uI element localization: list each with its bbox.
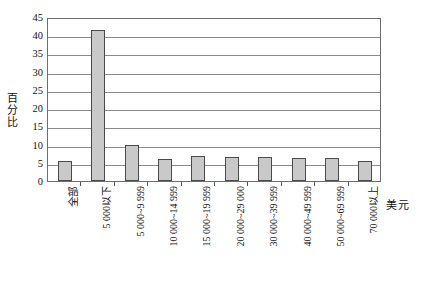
x-axis-category-label: 50 000~69 999 (335, 186, 346, 246)
bar (358, 161, 372, 181)
bar (258, 157, 272, 181)
bar (91, 30, 105, 181)
y-axis-tick-label: 25 (33, 86, 44, 96)
x-axis-category-label: 40 000~49 999 (302, 186, 313, 246)
x-axis-category-label: 全部 (68, 186, 79, 207)
x-axis-category-label: 10 000~14 999 (168, 186, 179, 246)
bar (292, 158, 306, 181)
y-axis-tick-label: 0 (38, 177, 43, 187)
x-axis-category-label: 15 000~19 999 (201, 186, 212, 246)
bar (158, 159, 172, 181)
x-axis-category-label: 5 000~9 999 (135, 186, 146, 236)
bar-series (48, 19, 380, 181)
y-axis-tick-label: 20 (33, 104, 44, 114)
y-axis-tick-label: 15 (33, 122, 44, 132)
plot-area (47, 18, 381, 182)
x-axis-category-labels: 全部5 000以下5 000~9 99910 000~14 99915 000~… (47, 186, 381, 282)
x-axis-category-label: 20 000~29 000 (235, 186, 246, 246)
x-axis-category-label: 70 000以上 (368, 186, 379, 234)
x-axis-category-label: 30 000~39 999 (268, 186, 279, 246)
y-axis-tick-labels: 454035302520151050 (16, 0, 46, 283)
bar (325, 158, 339, 181)
bar (225, 157, 239, 181)
y-axis-tick-label: 5 (38, 159, 43, 169)
x-axis-category-label: 5 000以下 (101, 186, 112, 229)
x-axis-title: 美元 (386, 196, 410, 212)
y-axis-tick-label: 40 (33, 31, 44, 41)
y-axis-tick-label: 10 (33, 141, 44, 151)
bar-chart: 百分比 454035302520151050 全部5 000以下5 000~9 … (0, 0, 423, 283)
y-axis-tick-label: 35 (33, 49, 44, 59)
y-axis-tick-label: 30 (33, 68, 44, 78)
bar (58, 161, 72, 181)
bar (125, 145, 139, 181)
y-axis-tick-label: 45 (33, 13, 44, 23)
bar (191, 156, 205, 181)
